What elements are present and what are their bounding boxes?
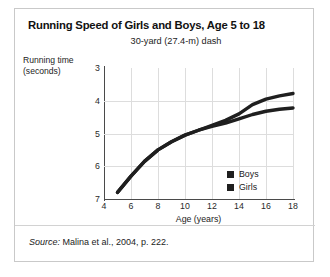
- x-tick-label: 8: [156, 201, 161, 211]
- legend-swatch-icon: [227, 171, 234, 178]
- plot-area: 345674681012141618: [104, 68, 293, 199]
- legend-label: Boys: [239, 169, 259, 179]
- source-label: Source:: [29, 237, 60, 247]
- x-tick-label: 18: [288, 201, 298, 211]
- legend-label: Girls: [239, 182, 257, 192]
- x-axis-title: Age (years): [104, 214, 293, 224]
- source-note: Source: Malina et al., 2004, p. 222.: [29, 237, 169, 247]
- y-tick-label: 3: [95, 63, 100, 73]
- gridline-vertical: [293, 68, 294, 199]
- legend-item-boys: Boys: [227, 169, 259, 179]
- x-tick-label: 12: [207, 201, 217, 211]
- series-lines: [104, 68, 293, 199]
- series-line-boys: [118, 94, 294, 193]
- legend-item-girls: Girls: [227, 182, 259, 192]
- y-tick-label: 7: [95, 194, 100, 204]
- series-line-girls: [118, 108, 294, 193]
- x-tick-label: 16: [261, 201, 271, 211]
- figure-panel: Running Speed of Girls and Boys, Age 5 t…: [14, 8, 314, 262]
- y-tick-label: 4: [95, 96, 100, 106]
- x-tick-label: 4: [102, 201, 107, 211]
- x-tick-label: 10: [180, 201, 190, 211]
- x-tick-label: 6: [129, 201, 134, 211]
- source-divider: [15, 225, 315, 226]
- chart-legend: BoysGirls: [227, 169, 259, 195]
- y-tick-label: 5: [95, 129, 100, 139]
- legend-swatch-icon: [227, 184, 234, 191]
- x-tick-label: 14: [234, 201, 244, 211]
- source-citation: Malina et al., 2004, p. 222.: [60, 237, 169, 247]
- y-tick-label: 6: [95, 161, 100, 171]
